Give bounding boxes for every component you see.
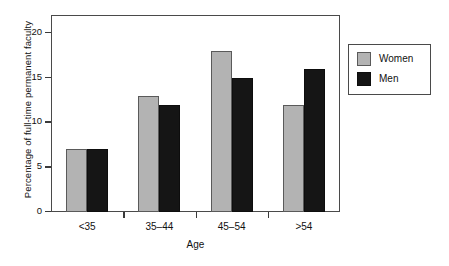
- y-axis-title: Percentage of full-time permanent facult…: [22, 10, 33, 210]
- bar-men-45–54: [232, 78, 253, 212]
- y-tick-label: 10: [0, 115, 42, 126]
- y-tick-mark: [45, 32, 51, 33]
- y-tick-mark: [45, 211, 51, 212]
- x-tick-label: >54: [264, 221, 344, 232]
- x-tick-label: 35–44: [119, 221, 199, 232]
- bar-men->54: [304, 69, 325, 212]
- bar-women-35–44: [138, 96, 159, 212]
- legend-label-women: Women: [379, 53, 413, 64]
- bar-men-<35: [87, 149, 108, 212]
- legend-swatch-men-icon: [357, 72, 371, 86]
- bar-women-45–54: [211, 51, 232, 212]
- x-tick-label: <35: [47, 221, 127, 232]
- y-tick-label: 5: [0, 160, 42, 171]
- y-tick-mark: [45, 121, 51, 122]
- x-tick-mark: [123, 212, 124, 218]
- chart-legend: Women Men: [348, 44, 431, 95]
- x-tick-mark: [268, 212, 269, 218]
- bar-women-<35: [66, 149, 87, 212]
- x-tick-label: 45–54: [192, 221, 272, 232]
- y-tick-label: 0: [0, 205, 42, 216]
- y-tick-mark: [45, 77, 51, 78]
- x-axis-title: Age: [51, 239, 340, 250]
- bar-women->54: [283, 105, 304, 212]
- y-tick-label: 15: [0, 71, 42, 82]
- legend-label-men: Men: [379, 73, 398, 84]
- legend-swatch-women-icon: [357, 52, 371, 66]
- bar-men-35–44: [159, 105, 180, 212]
- y-tick-label: 20: [0, 26, 42, 37]
- x-tick-mark: [196, 212, 197, 218]
- y-tick-mark: [45, 166, 51, 167]
- bar-chart-figure: Percentage of full-time permanent facult…: [0, 0, 449, 266]
